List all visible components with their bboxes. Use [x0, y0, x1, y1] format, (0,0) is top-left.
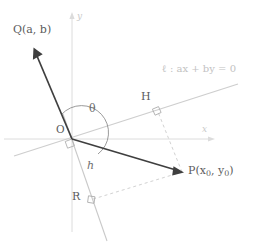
axis-group [4, 12, 215, 232]
label-y-axis: y [77, 12, 82, 21]
dashed-segment-p-to-r [90, 172, 182, 200]
label-point-p-prefix: P(x [188, 164, 206, 177]
label-angle-theta: θ [89, 103, 96, 114]
label-origin: O [56, 124, 65, 135]
label-point-h: H [141, 91, 151, 102]
vector-oq [33, 48, 72, 140]
label-distance-h: h [87, 160, 94, 171]
dashed-segment-p-to-h [158, 112, 182, 172]
x-axis-arrowhead [208, 136, 215, 141]
label-point-p-suffix: ) [229, 164, 233, 177]
label-x-axis: x [202, 125, 207, 134]
geometry-figure: Q(a, b) y x O θ ℓ : ax + by = 0 H R h P(… [0, 0, 262, 247]
label-point-p: P(x0, y0) [188, 165, 233, 178]
label-point-r: R [72, 191, 80, 202]
label-point-q: Q(a, b) [13, 24, 51, 35]
y-axis-arrowhead [69, 12, 74, 19]
diagram-canvas [0, 0, 262, 247]
line-l [14, 84, 238, 156]
label-line-equation: ℓ : ax + by = 0 [162, 64, 236, 74]
vector-op-arrowhead [172, 166, 184, 175]
label-point-p-mid: , y [211, 164, 224, 177]
vector-oq-shaft [37, 56, 72, 139]
